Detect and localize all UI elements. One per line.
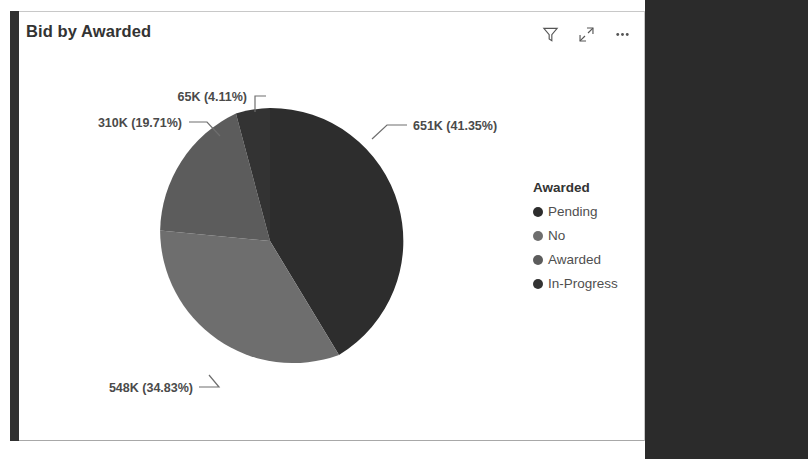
left-accent-bar: [10, 11, 19, 441]
legend-swatch-no: [533, 231, 543, 241]
data-label-awarded: 310K (19.71%): [98, 116, 182, 130]
legend-item-pending[interactable]: Pending: [533, 204, 643, 219]
legend-swatch-pending: [533, 207, 543, 217]
legend-label-pending: Pending: [548, 204, 598, 219]
chart-legend: Awarded Pending No Awarded In-Progress: [533, 180, 643, 300]
legend-label-no: No: [548, 228, 565, 243]
legend-item-awarded[interactable]: Awarded: [533, 252, 643, 267]
data-label-pending: 651K (41.35%): [413, 119, 497, 133]
pie-slices: [160, 108, 403, 363]
pie-chart-visual-card[interactable]: Bid by Awarded: [19, 11, 645, 441]
data-label-no: 548K (34.83%): [109, 381, 193, 395]
leader-line-no: [199, 375, 219, 387]
legend-swatch-awarded: [533, 255, 543, 265]
leader-line-pending: [372, 125, 407, 139]
legend-swatch-in-progress: [533, 279, 543, 289]
legend-item-no[interactable]: No: [533, 228, 643, 243]
right-dark-background-panel: [645, 0, 808, 459]
legend-label-in-progress: In-Progress: [548, 276, 618, 291]
legend-title: Awarded: [533, 180, 643, 195]
data-label-in-progress: 65K (4.11%): [178, 90, 247, 104]
legend-item-in-progress[interactable]: In-Progress: [533, 276, 643, 291]
legend-label-awarded: Awarded: [548, 252, 601, 267]
